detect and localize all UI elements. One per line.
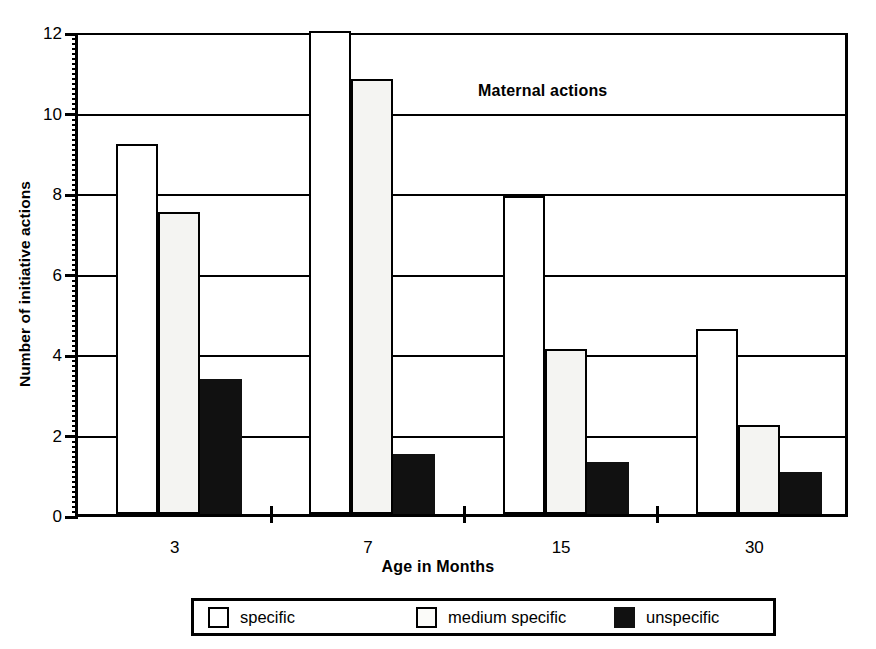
gridline <box>78 194 848 196</box>
y-minor-tick <box>72 290 78 292</box>
y-minor-tick <box>72 476 78 478</box>
y-minor-tick <box>72 38 78 40</box>
y-minor-tick <box>72 506 78 508</box>
y-minor-tick <box>72 275 78 277</box>
y-minor-tick <box>72 365 78 367</box>
y-minor-tick <box>72 204 78 206</box>
gridline <box>78 114 848 116</box>
y-minor-tick <box>72 300 78 302</box>
y-minor-tick <box>72 164 78 166</box>
y-minor-tick <box>72 219 78 221</box>
y-minor-tick <box>72 114 78 116</box>
y-minor-tick <box>72 169 78 171</box>
x-tick-label: 15 <box>501 539 621 556</box>
bar-specific-30 <box>696 329 738 514</box>
bar-unspecific-30 <box>780 472 822 514</box>
x-axis-title: Age in Months <box>0 558 876 576</box>
y-minor-tick <box>72 229 78 231</box>
x-tick-mark <box>270 506 273 523</box>
y-minor-tick <box>72 315 78 317</box>
y-minor-tick <box>72 461 78 463</box>
y-minor-tick <box>72 124 78 126</box>
y-minor-tick <box>72 350 78 352</box>
y-minor-tick <box>72 375 78 377</box>
y-tick-label: 6 <box>16 267 62 284</box>
y-minor-tick <box>72 405 78 407</box>
y-minor-tick <box>72 239 78 241</box>
plot-area: 024681012 371530 Maternal actions <box>75 34 848 517</box>
y-minor-tick <box>72 471 78 473</box>
y-minor-tick <box>72 385 78 387</box>
y-minor-tick <box>72 209 78 211</box>
y-minor-tick <box>72 330 78 332</box>
bar-medium-specific-30 <box>738 425 780 514</box>
x-tick-mark <box>656 506 659 523</box>
y-minor-tick <box>72 269 78 271</box>
y-minor-tick <box>72 496 78 498</box>
y-minor-tick <box>72 43 78 45</box>
y-minor-tick <box>72 486 78 488</box>
y-minor-tick <box>72 380 78 382</box>
y-minor-tick <box>72 78 78 80</box>
y-minor-tick <box>72 400 78 402</box>
y-minor-tick <box>72 415 78 417</box>
legend-swatch-icon <box>614 607 635 628</box>
y-minor-tick <box>72 63 78 65</box>
y-tick-label: 2 <box>16 428 62 445</box>
y-minor-tick <box>72 129 78 131</box>
legend-label: specific <box>240 609 295 626</box>
y-tick-label: 10 <box>16 106 62 123</box>
y-minor-tick <box>72 446 78 448</box>
y-minor-tick <box>72 410 78 412</box>
y-minor-tick <box>72 174 78 176</box>
y-minor-tick <box>72 340 78 342</box>
y-minor-tick <box>72 149 78 151</box>
y-minor-tick <box>72 345 78 347</box>
y-axis-title: Number of initiative actions <box>16 119 34 449</box>
legend-item-unspecific[interactable]: unspecific <box>614 607 719 628</box>
y-minor-tick <box>72 134 78 136</box>
y-minor-tick <box>72 68 78 70</box>
x-tick-label: 3 <box>115 539 235 556</box>
y-minor-tick <box>72 234 78 236</box>
y-minor-tick <box>72 48 78 50</box>
y-minor-tick <box>72 159 78 161</box>
bar-medium-specific-3 <box>158 212 200 514</box>
y-minor-tick <box>72 325 78 327</box>
bar-specific-15 <box>503 196 545 514</box>
legend-label: unspecific <box>646 609 719 626</box>
y-minor-tick <box>72 456 78 458</box>
y-minor-tick <box>72 98 78 100</box>
y-tick-label: 4 <box>16 347 62 364</box>
legend-item-specific[interactable]: specific <box>208 607 295 628</box>
y-minor-tick <box>72 179 78 181</box>
bar-unspecific-3 <box>200 379 242 514</box>
y-minor-tick <box>72 244 78 246</box>
bar-specific-7 <box>309 31 351 514</box>
y-minor-tick <box>72 395 78 397</box>
y-minor-tick <box>72 491 78 493</box>
y-minor-tick <box>72 249 78 251</box>
y-minor-tick <box>72 310 78 312</box>
x-tick-label: 7 <box>308 539 428 556</box>
x-tick-label: 30 <box>694 539 814 556</box>
y-minor-tick <box>72 224 78 226</box>
y-minor-tick <box>72 254 78 256</box>
legend-label: medium specific <box>448 609 566 626</box>
legend-item-medium-specific[interactable]: medium specific <box>416 607 566 628</box>
y-minor-tick <box>72 425 78 427</box>
y-minor-tick <box>72 320 78 322</box>
y-minor-tick <box>72 88 78 90</box>
y-minor-tick <box>72 264 78 266</box>
y-minor-tick <box>72 103 78 105</box>
y-minor-tick <box>72 501 78 503</box>
y-minor-tick <box>72 189 78 191</box>
y-minor-tick <box>72 139 78 141</box>
y-minor-tick <box>72 93 78 95</box>
bar-unspecific-7 <box>393 454 435 514</box>
y-minor-tick <box>72 516 78 518</box>
y-minor-tick <box>72 184 78 186</box>
bar-unspecific-15 <box>587 462 629 514</box>
y-minor-tick <box>72 154 78 156</box>
legend-swatch-icon <box>208 607 229 628</box>
